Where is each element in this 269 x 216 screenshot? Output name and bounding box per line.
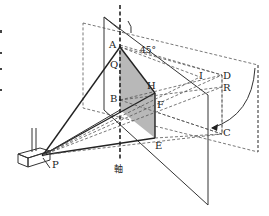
label-I: I xyxy=(199,70,203,81)
ray-PB xyxy=(43,110,120,155)
axis-label: 軸 xyxy=(114,163,123,174)
leader-P xyxy=(43,158,50,168)
text-fragment xyxy=(0,89,2,91)
label-R: R xyxy=(223,82,231,93)
label-Q: Q xyxy=(110,59,118,70)
text-fragment xyxy=(0,30,2,33)
point-A xyxy=(119,46,121,48)
screen-edge xyxy=(104,17,120,30)
label-D: D xyxy=(223,70,231,81)
angle-arc xyxy=(128,21,131,33)
arrowhead-icon xyxy=(211,124,218,131)
ray-PA xyxy=(43,47,120,155)
angle-label: 45° xyxy=(140,45,156,55)
label-C: C xyxy=(223,127,231,138)
label-H: H xyxy=(147,80,156,91)
line-EC xyxy=(155,134,222,138)
point-B xyxy=(119,99,121,101)
ray-PC xyxy=(43,134,222,155)
text-fragment xyxy=(0,52,2,54)
text-fragment xyxy=(0,68,2,70)
projection-diagram: A Q B H F E I D R C P 45° 軸 xyxy=(0,0,269,216)
label-F: F xyxy=(157,99,164,110)
label-B: B xyxy=(110,93,117,104)
label-A: A xyxy=(108,39,117,50)
label-P: P xyxy=(52,159,59,170)
label-E: E xyxy=(155,140,162,151)
